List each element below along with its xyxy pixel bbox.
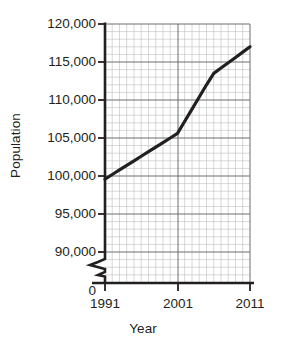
x-axis-title: Year (0, 321, 286, 336)
x-axis-tick-labels: 1991 2001 2011 (0, 0, 286, 349)
x-tick-label: 2001 (163, 297, 193, 311)
x-tick-label: 1991 (90, 297, 120, 311)
x-tick-label: 2011 (235, 297, 264, 311)
population-line-chart: Population 120,000 115,000 110,000 105,0… (0, 0, 286, 349)
